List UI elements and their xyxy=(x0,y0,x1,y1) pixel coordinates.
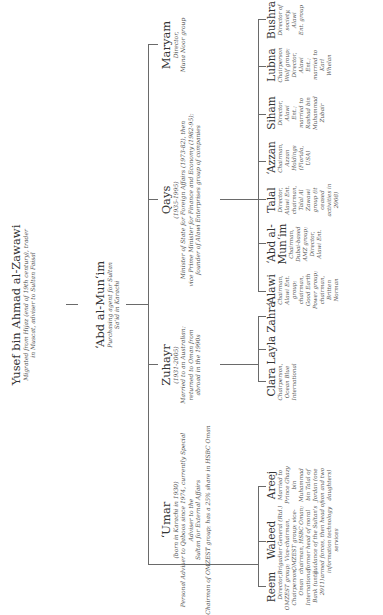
child-name: Qays xyxy=(160,100,172,300)
grandchild-note: information technology xyxy=(326,500,333,580)
child-note: abroad in the 1990s xyxy=(194,310,201,420)
child-note: Director, xyxy=(172,0,179,90)
grandchild-note: Chairperson xyxy=(277,42,284,88)
grandchild-note: Director, xyxy=(291,42,298,88)
grandchild-note: OMZEST group; vice- xyxy=(291,500,298,580)
grandchild-note: Married to xyxy=(277,463,284,507)
zuhayr-drop xyxy=(148,364,158,365)
grandchild-areej: Areej Married to Prince Ghazy bin Muhamm… xyxy=(266,463,333,507)
grandchild-note: Wolf group; xyxy=(284,42,291,88)
child-name: ‘Umar xyxy=(160,425,172,615)
grandchild-note: daughters) xyxy=(326,463,333,507)
child-note: Muna Noor group xyxy=(179,0,186,90)
root-node: Yusef bin Ahmad al-Zawawi Migrated from … xyxy=(10,155,37,455)
grandchild-note: USA) xyxy=(305,136,312,180)
grandchild-note: Alawi Ent. xyxy=(284,179,291,221)
grandchild-note: Whelan xyxy=(326,42,333,88)
child-note: Minister of State for Foreign Affairs (1… xyxy=(179,100,186,300)
founder-note-2: Sa‘id in Karachi xyxy=(113,205,120,405)
child-note: (1935-1995) xyxy=(172,100,179,300)
grandchild-note: Muhammad xyxy=(312,91,319,135)
grandchild-note: Jordan (one xyxy=(312,463,319,507)
grandchild-note: armed forces, then head of xyxy=(319,500,326,580)
maryam-drop xyxy=(148,44,158,45)
umar-drop xyxy=(148,564,158,565)
grandchild-note: Karl xyxy=(319,42,326,88)
grandchild-note: Alawi Ent. xyxy=(316,221,323,267)
grandchild-siham: Siham Director, Alawi Ent.; married to R… xyxy=(266,91,326,135)
grandchild-note: AMZ group; xyxy=(302,221,309,267)
qays-children-bar xyxy=(258,20,259,292)
zuhayr-children-stem xyxy=(220,364,258,365)
grandchild-bushra: Bushra Director of society, Alawi Ent. g… xyxy=(266,0,305,40)
grandchild-note: Ent. group xyxy=(298,0,305,40)
grandchild-note: Azzan xyxy=(284,136,291,180)
child-note: (1931-2005) xyxy=(172,310,179,420)
child-name: Maryam xyxy=(160,0,172,90)
child-note: Married to an Australian; xyxy=(179,310,186,420)
grandchild-talal: Talal Director, Alawi Ent. chairman, Tal… xyxy=(266,179,340,221)
grandchild-note: guidance of the Sultan's xyxy=(312,500,319,580)
grandchild-note: Zawawi xyxy=(305,179,312,221)
grandchild-note: married to xyxy=(312,42,319,88)
qays-drop xyxy=(148,199,158,200)
grandchild-note: group (it xyxy=(312,179,319,221)
grandchild-name: Bushra xyxy=(266,0,277,40)
grandchild-note: International xyxy=(291,360,298,404)
child-note: vice Prime Minister for Finance and Econ… xyxy=(187,100,194,300)
grandchild-note: bin xyxy=(291,463,298,507)
umar-children-bar xyxy=(258,487,259,587)
grandchild-name: Talal xyxy=(266,179,277,221)
grandchild-note: 2008) xyxy=(333,179,340,221)
grandchild-note: Alawi Ent. xyxy=(284,268,291,312)
grandchild-note: Prince Ghazy xyxy=(284,463,291,507)
grandchild-note: chairman, HSBC Oman; xyxy=(298,500,305,580)
grandchild-name: Waleed xyxy=(266,500,277,580)
grandchild-name: Siham xyxy=(266,91,277,135)
founder-node: ‘Abd al-Mun‘im Purchasing agent for Sult… xyxy=(94,205,121,405)
grandchild-note: chairman, xyxy=(291,179,298,221)
grandchild-note: Alawi xyxy=(284,91,291,135)
grandchild-note: Zubair xyxy=(319,91,326,135)
root-note-2: in Muscat, adviser to Sultan Faisal xyxy=(29,155,36,455)
child-note: Personal Adviser to Qaboos since 1974, c… xyxy=(179,425,194,615)
founder-note-1: Purchasing agent for Sultan xyxy=(106,205,113,405)
root-connector xyxy=(66,304,78,305)
grandchild-note: group; xyxy=(291,268,298,312)
child-umar: ‘Umar (born in Karachi in 1930) Personal… xyxy=(160,425,211,615)
grandchild-name: Layla xyxy=(266,333,277,367)
grandchild-note: Chairman, xyxy=(277,268,284,312)
grandchild-note: son and two xyxy=(319,463,326,507)
grandchild-note: Alawi xyxy=(291,0,298,40)
grandchild-note: Chairperson, xyxy=(277,360,284,404)
qays-children-stem xyxy=(220,199,258,200)
grandchild-note: bin Talal of xyxy=(305,463,312,507)
grandchild-layla: Layla xyxy=(266,333,277,367)
grandchild-note: Holdings xyxy=(291,136,298,180)
grandchild-note: Director, xyxy=(277,179,284,221)
grandchild-azzan: ‘Azzan Chairman, Azzan Holdings (Florida… xyxy=(266,136,312,180)
child-note: returned to Oman from xyxy=(187,310,194,420)
grandchild-note: Director of xyxy=(277,0,284,40)
grandchild-note: Britten xyxy=(326,268,333,312)
grandchild-note: Chairman, xyxy=(288,221,295,267)
grandchild-note: Good Earth xyxy=(305,268,312,312)
child-qays: Qays (1935-1995) Minister of State for F… xyxy=(160,100,202,300)
founder-connector xyxy=(126,304,148,305)
grandchild-note: Brigadier General (Rtd.) xyxy=(277,500,284,580)
umar-children-stem xyxy=(158,564,258,565)
grandchild-note: services xyxy=(333,500,340,580)
grandchild-note: Alawi xyxy=(298,42,305,88)
grandchild-note: Ent.; xyxy=(305,42,312,88)
grandchild-note: activities in xyxy=(326,179,333,221)
grandchild-note: Ocean Blue xyxy=(284,360,291,404)
child-note: Sultan for External Affairs xyxy=(194,425,201,615)
root-name: Yusef bin Ahmad al-Zawawi xyxy=(10,155,22,455)
grandchild-note: married to xyxy=(298,91,305,135)
grandchild-lubna: Lubna Chairperson Wolf group; Director, … xyxy=(266,42,333,88)
grandchild-note: chairman, xyxy=(298,268,305,312)
grandchild-name: ‘Azzan xyxy=(266,136,277,180)
grandchild-name: Lubna xyxy=(266,42,277,88)
child-note: Chairman of OMZEST group; has a 25% shar… xyxy=(204,425,211,615)
